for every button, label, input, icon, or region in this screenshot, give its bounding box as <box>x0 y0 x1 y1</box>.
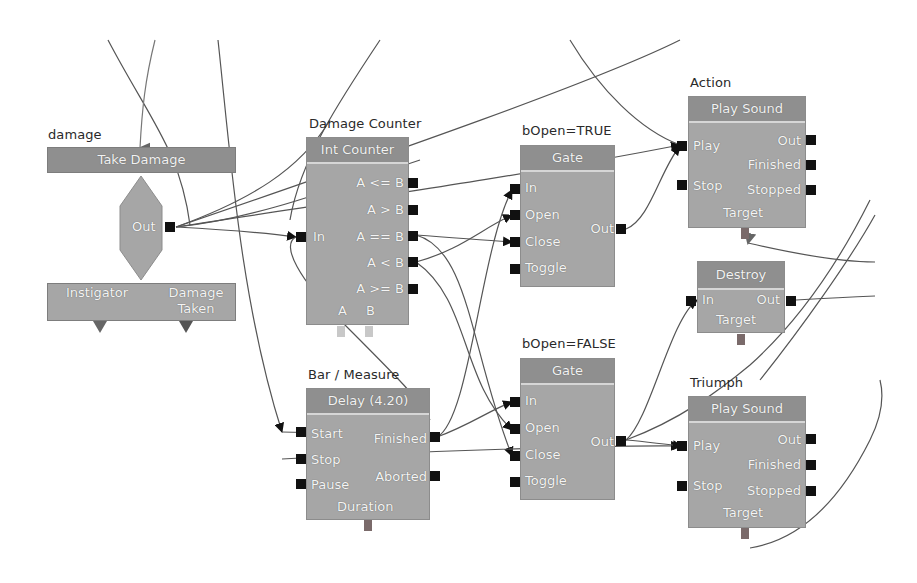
var-damage-taken-label: Damage Taken <box>156 285 236 317</box>
gate-true-open-port[interactable] <box>510 210 520 220</box>
counter-var-b-label: B <box>366 303 375 318</box>
action-title: Action <box>690 75 731 90</box>
gate-true-in-label: In <box>525 180 537 195</box>
triumph-finished-label: Finished <box>748 457 801 472</box>
gate-false-out-port[interactable] <box>616 436 626 446</box>
var-instigator-label: Instigator <box>66 285 128 300</box>
counter-var-a-port[interactable] <box>337 326 345 337</box>
gate-true-title: bOpen=TRUE <box>522 123 612 138</box>
take-damage-header[interactable]: Take Damage <box>47 147 236 173</box>
triumph-play-sound-node[interactable]: Play Sound Play Stop Out Finished Stoppe… <box>688 396 806 528</box>
gate-false-open-port[interactable] <box>510 424 520 434</box>
counter-out-gt-label: A > B <box>367 202 404 217</box>
counter-ge-port[interactable] <box>408 284 418 294</box>
destroy-out-port[interactable] <box>786 296 796 306</box>
delay-stop-label: Stop <box>311 452 341 467</box>
action-play-port[interactable] <box>677 141 687 151</box>
counter-out-lt-label: A < B <box>367 255 404 270</box>
triumph-target-port[interactable] <box>741 528 749 539</box>
counter-var-a-label: A <box>338 303 347 318</box>
counter-in-label: In <box>313 229 325 244</box>
gate-false-node[interactable]: Gate In Open Close Toggle Out <box>520 358 615 500</box>
gate-false-close-port[interactable] <box>510 451 520 461</box>
destroy-header: Destroy <box>698 262 784 290</box>
action-target-label: Target <box>723 205 763 220</box>
action-out-port[interactable] <box>806 135 816 145</box>
counter-out-le-label: A <= B <box>356 175 404 190</box>
destroy-out-label: Out <box>756 292 780 307</box>
action-finished-label: Finished <box>748 157 801 172</box>
delay-finished-label: Finished <box>374 431 427 446</box>
triumph-target-label: Target <box>723 505 763 520</box>
counter-in-port[interactable] <box>296 232 306 242</box>
gate-true-close-port[interactable] <box>510 237 520 247</box>
counter-le-port[interactable] <box>408 178 418 188</box>
delay-title: Bar / Measure <box>308 367 399 382</box>
triumph-stopped-port[interactable] <box>806 486 816 496</box>
action-target-port[interactable] <box>741 228 749 239</box>
action-finished-port[interactable] <box>806 160 816 170</box>
event-out-label: Out <box>132 219 156 234</box>
gate-false-header: Gate <box>521 359 614 385</box>
counter-var-b-port[interactable] <box>365 326 373 337</box>
action-play-sound-node[interactable]: Play Sound Play Stop Out Finished Stoppe… <box>688 96 806 228</box>
counter-eq-port[interactable] <box>408 231 418 241</box>
action-header: Play Sound <box>689 97 805 123</box>
destroy-in-port[interactable] <box>686 296 696 306</box>
gate-true-out-port[interactable] <box>616 224 626 234</box>
destroy-in-label: In <box>702 292 714 307</box>
gate-false-open-label: Open <box>525 420 560 435</box>
delay-aborted-label: Aborted <box>375 469 427 484</box>
action-stopped-port[interactable] <box>806 185 816 195</box>
delay-pause-port[interactable] <box>296 479 306 489</box>
delay-finished-port[interactable] <box>430 432 440 442</box>
gate-false-in-port[interactable] <box>510 397 520 407</box>
event-out-port[interactable] <box>165 222 175 232</box>
action-stopped-label: Stopped <box>747 182 801 197</box>
gate-false-out-label: Out <box>590 434 614 449</box>
counter-out-ge-label: A >= B <box>356 281 404 296</box>
gate-true-node[interactable]: Gate In Open Close Toggle Out <box>520 145 615 287</box>
gate-false-toggle-port[interactable] <box>510 477 520 487</box>
delay-node[interactable]: Delay (4.20) Start Stop Pause Finished A… <box>306 388 430 520</box>
counter-title: Damage Counter <box>309 116 421 131</box>
gate-true-toggle-label: Toggle <box>525 260 567 275</box>
event-vars-bar: Instigator Damage Taken <box>47 283 236 321</box>
gate-true-open-label: Open <box>525 207 560 222</box>
event-title: damage <box>48 127 102 142</box>
triumph-stop-port[interactable] <box>677 481 687 491</box>
gate-true-toggle-port[interactable] <box>510 264 520 274</box>
gate-false-title: bOpen=FALSE <box>522 336 616 351</box>
counter-lt-port[interactable] <box>408 257 418 267</box>
int-counter-node[interactable]: Int Counter In A <= B A > B A == B A < B… <box>306 137 409 325</box>
delay-aborted-port[interactable] <box>430 471 440 481</box>
gate-false-in-label: In <box>525 393 537 408</box>
gate-true-out-label: Out <box>590 221 614 236</box>
delay-stop-port[interactable] <box>296 454 306 464</box>
delay-duration-port[interactable] <box>364 520 372 531</box>
gate-true-header: Gate <box>521 146 614 172</box>
counter-out-eq-label: A == B <box>356 229 404 244</box>
triumph-play-port[interactable] <box>677 441 687 451</box>
triumph-out-label: Out <box>777 432 801 447</box>
action-play-label: Play <box>693 138 720 153</box>
delay-header: Delay (4.20) <box>307 389 429 415</box>
action-stop-port[interactable] <box>677 180 687 190</box>
triumph-finished-port[interactable] <box>806 460 816 470</box>
counter-gt-port[interactable] <box>408 205 418 215</box>
delay-start-label: Start <box>311 426 343 441</box>
destroy-node[interactable]: Destroy In Out Target <box>697 261 785 333</box>
delay-start-port[interactable] <box>296 427 306 437</box>
delay-pause-label: Pause <box>311 477 349 492</box>
destroy-target-port[interactable] <box>737 334 745 345</box>
gate-true-in-port[interactable] <box>510 184 520 194</box>
triumph-play-label: Play <box>693 438 720 453</box>
gate-true-close-label: Close <box>525 234 560 249</box>
triumph-stop-label: Stop <box>693 478 723 493</box>
triumph-out-port[interactable] <box>806 434 816 444</box>
action-stop-label: Stop <box>693 178 723 193</box>
instigator-var-port-icon[interactable] <box>93 321 107 333</box>
damage-taken-var-port-icon[interactable] <box>179 321 193 333</box>
action-out-label: Out <box>777 133 801 148</box>
triumph-header: Play Sound <box>689 397 805 423</box>
